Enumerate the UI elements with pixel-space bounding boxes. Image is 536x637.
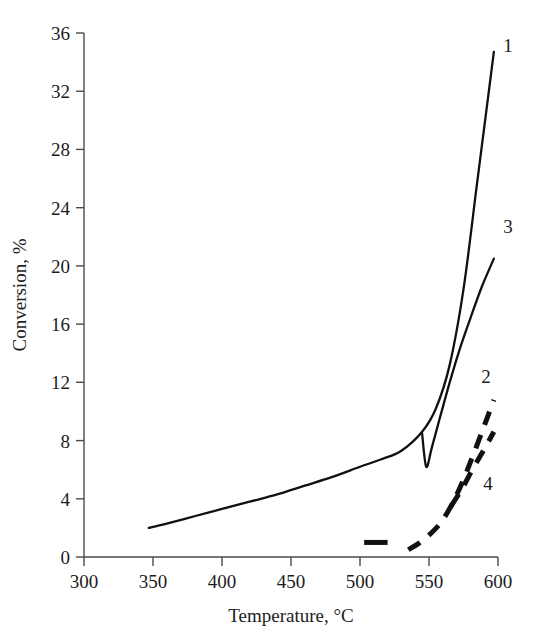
y-tick-label-16: 16 [51, 314, 70, 335]
y-tick-label-28: 28 [51, 139, 70, 160]
chart-figure: 0 4 8 12 16 20 24 28 32 36 300 350 400 4… [0, 0, 536, 637]
x-axis-ticks [84, 557, 498, 566]
curve-label-1: 1 [503, 35, 513, 56]
y-tick-label-4: 4 [61, 489, 71, 510]
x-tick-label-450: 450 [277, 571, 306, 592]
y-tick-label-8: 8 [61, 431, 71, 452]
x-tick-label-550: 550 [415, 571, 444, 592]
y-tick-label-12: 12 [51, 372, 70, 393]
curve-label-3: 3 [503, 216, 513, 237]
x-tick-label-300: 300 [70, 571, 99, 592]
data-curves [149, 52, 494, 550]
conversion-temperature-chart: 0 4 8 12 16 20 24 28 32 36 300 350 400 4… [0, 0, 536, 637]
y-tick-label-32: 32 [51, 81, 70, 102]
x-tick-label-400: 400 [208, 571, 237, 592]
curve-3 [422, 259, 494, 467]
y-tick-label-24: 24 [51, 198, 71, 219]
x-tick-label-500: 500 [346, 571, 375, 592]
x-axis-tick-labels: 300 350 400 450 500 550 600 [70, 571, 513, 592]
curve-4 [451, 432, 494, 506]
y-tick-label-20: 20 [51, 256, 70, 277]
x-tick-label-600: 600 [484, 571, 513, 592]
curve-label-2: 2 [481, 366, 491, 387]
curve-label-4: 4 [483, 473, 493, 494]
curve-1 [149, 52, 494, 528]
axis-frame [84, 33, 498, 557]
y-tick-label-0: 0 [61, 547, 71, 568]
y-tick-label-36: 36 [51, 23, 70, 44]
y-axis-ticks [76, 33, 84, 557]
y-axis-tick-labels: 0 4 8 12 16 20 24 28 32 36 [51, 23, 71, 568]
y-axis-title: Conversion, % [9, 238, 30, 351]
x-axis-title: Temperature, °C [228, 605, 354, 626]
x-tick-label-350: 350 [139, 571, 168, 592]
curve-2 [408, 400, 494, 550]
